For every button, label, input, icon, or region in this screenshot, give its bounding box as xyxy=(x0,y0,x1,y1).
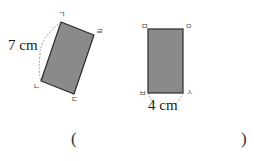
vertex-label-giyeok: ㄱ xyxy=(58,11,65,19)
right-side-length-label: 4 cm xyxy=(148,98,178,113)
right-rectangle xyxy=(148,29,183,93)
vertex-label-mieum: ㅁ xyxy=(141,23,148,31)
answer-open-paren: ( xyxy=(71,130,77,147)
vertex-label-nieun: ㄴ xyxy=(33,83,40,91)
answer-close-paren: ) xyxy=(241,130,247,147)
vertex-label-rieul: ㄹ xyxy=(96,28,103,36)
vertex-label-siot: ㅅ xyxy=(186,89,193,97)
answer-blank[interactable] xyxy=(80,130,238,148)
left-side-length-label: 7 cm xyxy=(8,38,38,53)
vertex-label-digeut: ㄷ xyxy=(71,96,78,104)
vertex-label-ieung: ㅇ xyxy=(185,23,192,31)
vertex-label-bieup: ㅂ xyxy=(139,90,146,98)
